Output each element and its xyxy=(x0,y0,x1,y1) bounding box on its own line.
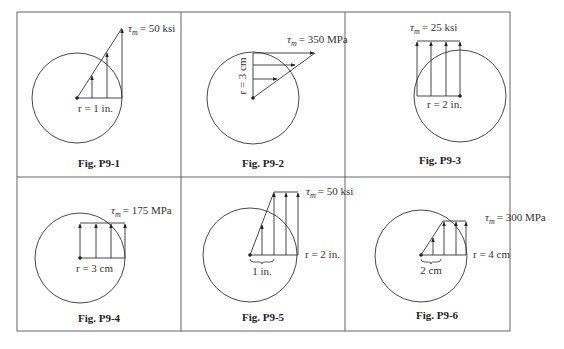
inner-label-p9-5: 1 in. xyxy=(252,265,272,277)
figure-p9-6 xyxy=(375,210,467,302)
radius-label-p9-6: r = 4 cm xyxy=(473,248,510,260)
center-dot xyxy=(75,96,79,100)
caption-p9-5: Fig. P9-5 xyxy=(242,311,285,323)
figure-p9-5 xyxy=(203,192,298,302)
tau-label-p9-2: τm= 350 MPa xyxy=(287,33,348,48)
caption-p9-6: Fig. P9-6 xyxy=(416,309,459,321)
tau-label-p9-6: τm= 300 MPa xyxy=(485,211,546,226)
brace-icon xyxy=(250,259,274,264)
tau-label-p9-3: τm= 25 ksi xyxy=(410,21,457,36)
figure-p9-3 xyxy=(414,41,506,142)
center-dot xyxy=(248,253,252,257)
caption-p9-4: Fig. P9-4 xyxy=(78,312,121,324)
grid-lines xyxy=(17,12,510,331)
caption-p9-2: Fig. P9-2 xyxy=(242,157,285,169)
radius-label-p9-5: r = 2 in. xyxy=(305,248,340,260)
radius-label-p9-2: r = 3 cm xyxy=(236,57,248,94)
radius-label-p9-4: r = 3 cm xyxy=(76,262,113,274)
radius-label-p9-1: r = 1 in. xyxy=(78,102,113,114)
figure-p9-4 xyxy=(35,213,125,303)
center-dot xyxy=(419,253,423,257)
radius-label-p9-3: r = 2 in. xyxy=(427,98,462,110)
caption-p9-1: Fig. P9-1 xyxy=(78,157,120,169)
tau-label-p9-5: τm= 50 ksi xyxy=(306,185,353,200)
inner-label-p9-6: 2 cm xyxy=(420,264,442,276)
tau-label-p9-1: τm= 50 ksi xyxy=(128,22,175,37)
center-dot xyxy=(251,96,255,100)
figure-p9-2 xyxy=(207,52,315,144)
center-dot xyxy=(78,256,82,260)
figure-p9-1 xyxy=(32,28,122,143)
figure-grid: τm= 50 ksi r = 1 in. Fig. P9-1 τm= 350 M… xyxy=(0,0,564,349)
caption-p9-3: Fig. P9-3 xyxy=(419,154,462,166)
tau-label-p9-4: τm= 175 MPa xyxy=(111,204,172,219)
